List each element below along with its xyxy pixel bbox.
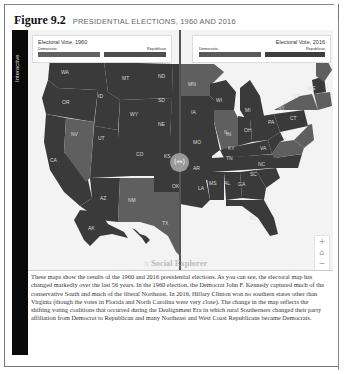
label-CO: CO — [136, 151, 144, 157]
label-FL: FL — [250, 215, 256, 221]
label-IN: IN — [226, 131, 231, 137]
legend-2016-rep-swatch — [265, 52, 325, 57]
label-NV: NV — [71, 131, 79, 137]
side-tab-label: Interactive — [14, 38, 26, 98]
legend-2016-title: Electoral Vote, 2016 — [276, 39, 325, 45]
label-NY: NY — [278, 105, 286, 111]
label-ME: ME — [308, 85, 316, 91]
state-WY[interactable] — [118, 98, 172, 138]
state-IA[interactable] — [180, 96, 214, 122]
swap-arrows-icon[interactable]: ⟨↔⟩ — [170, 153, 189, 172]
state-PA[interactable] — [274, 110, 308, 132]
label-AK: AK — [88, 225, 95, 231]
state-MI[interactable] — [240, 80, 264, 120]
label-MI: MI — [245, 107, 251, 113]
label-VA: VA — [260, 145, 267, 151]
label-GA: GA — [238, 181, 246, 187]
label-UT: UT — [98, 135, 105, 141]
compare-divider[interactable] — [179, 30, 181, 270]
label-SD: SD — [158, 97, 165, 103]
zoom-in-button[interactable]: + — [315, 236, 329, 247]
label-WA: WA — [61, 69, 70, 75]
label-MS: MS — [209, 180, 217, 186]
label-MT: MT — [122, 75, 129, 81]
label-OR: OR — [62, 99, 70, 105]
label-ID: ID — [98, 93, 103, 99]
label-ND: ND — [158, 73, 166, 79]
label-CT: CT — [290, 115, 297, 121]
label-TN: TN — [226, 155, 233, 161]
legend-1960-rep-label: Republican — [147, 47, 166, 51]
label-TX: TX — [162, 220, 169, 226]
label-NC: NC — [258, 161, 266, 167]
map-viewer[interactable]: WA OR ID MT WY NV UT CO CA AZ NM TX OK N… — [28, 30, 333, 271]
legend-2016-dem-label: Democratic — [199, 47, 218, 51]
label-MO: MO — [193, 139, 201, 145]
label-IA: IA — [191, 109, 196, 115]
label-AR: AR — [193, 165, 200, 171]
label-KY: KY — [228, 145, 235, 151]
legend-2016-dem-swatch — [199, 52, 261, 57]
label-WI: WI — [216, 97, 222, 103]
legend-1960-dem-label: Democratic — [38, 47, 57, 51]
label-OH: OH — [244, 127, 252, 133]
zoom-out-button[interactable]: − — [315, 258, 329, 269]
label-CA: CA — [50, 157, 58, 163]
label-NE: NE — [158, 121, 166, 127]
social-explorer-logo: ⁙Social Explorer — [144, 258, 207, 268]
logo-text: Social Explorer — [151, 258, 207, 268]
interactive-side-tab: Interactive — [12, 30, 28, 355]
label-NM: NM — [128, 197, 136, 203]
state-LA[interactable] — [180, 180, 210, 208]
label-AZ: AZ — [100, 195, 106, 201]
home-icon[interactable]: ⌂ — [315, 247, 329, 258]
label-VT: VT — [293, 93, 299, 99]
legend-1960-dem-swatch — [38, 52, 100, 57]
legend-2016-rep-label: Republican — [306, 47, 325, 51]
label-SC: SC — [250, 171, 257, 177]
state-NM[interactable] — [118, 178, 154, 222]
label-PA: PA — [268, 119, 275, 125]
figure-caption: These maps show the results of the 1960 … — [31, 273, 329, 323]
legend-1960-title: Electoral Vote, 1960 — [38, 39, 87, 45]
legend-1960-rep-swatch — [104, 52, 166, 57]
label-MN: MN — [188, 81, 196, 87]
dots-icon: ⁙ — [144, 261, 149, 267]
state-MT[interactable] — [104, 62, 173, 100]
legend-1960: Electoral Vote, 1960 Democratic Republic… — [32, 35, 172, 63]
state-HI[interactable] — [132, 228, 150, 244]
figure-title: PRESIDENTIAL ELECTIONS, 1960 AND 2016 — [73, 17, 236, 26]
page-edge — [338, 20, 339, 370]
label-AL: AL — [224, 180, 230, 186]
map-left-1960 — [42, 58, 180, 256]
legend-2016: Electoral Vote, 2016 Democratic Republic… — [192, 35, 331, 63]
zoom-controls: + ⌂ − — [314, 235, 330, 271]
label-LA: LA — [198, 185, 205, 191]
figure-number: Figure 9.2 — [14, 13, 66, 28]
figure-header: Figure 9.2 PRESIDENTIAL ELECTIONS, 1960 … — [14, 13, 236, 29]
label-WY: WY — [130, 111, 139, 117]
